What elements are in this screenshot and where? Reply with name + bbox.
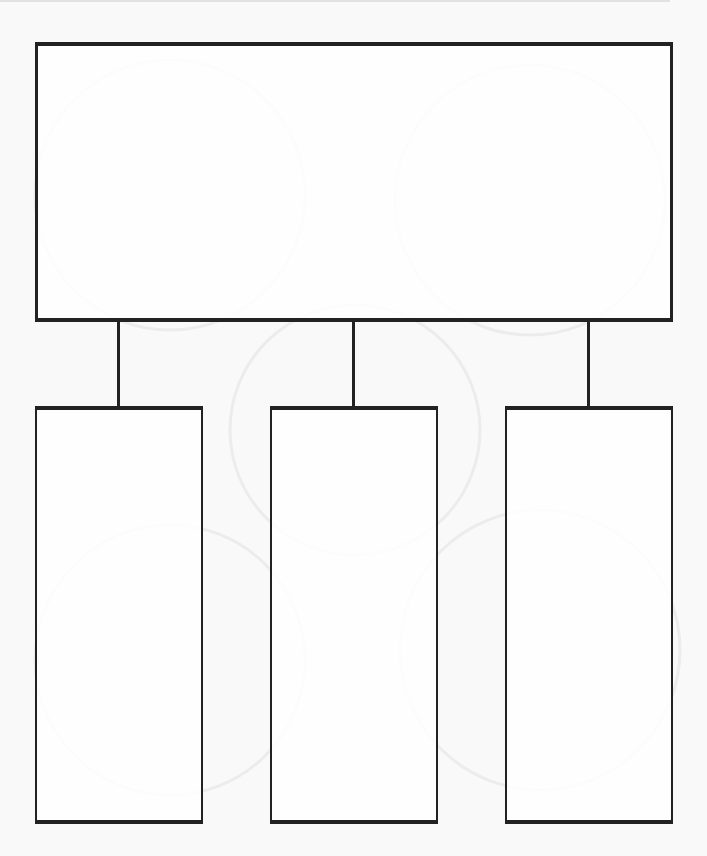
top-edge-strip xyxy=(0,0,670,2)
child-box-3[interactable] xyxy=(505,406,673,824)
child-box-1[interactable] xyxy=(35,406,203,824)
parent-box[interactable] xyxy=(35,42,673,322)
connector-line-1 xyxy=(117,320,120,408)
child-box-2[interactable] xyxy=(270,406,438,824)
connector-line-2 xyxy=(352,320,355,408)
connector-line-3 xyxy=(587,320,590,408)
